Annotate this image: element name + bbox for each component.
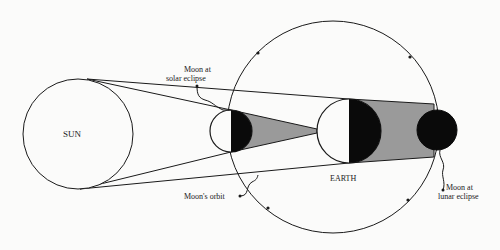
- moon-lunar-label-line1: Moon at: [446, 183, 474, 192]
- moon-lunar-label-line2: lunar eclipse: [438, 192, 479, 201]
- moon-solar-label-line1: Moon at: [184, 65, 212, 74]
- orbit-label: Moon's orbit: [184, 192, 226, 201]
- eclipse-diagram: SUN EARTH Moon at solar eclipse Moon at …: [0, 0, 500, 250]
- moon-solar-label-line2: solar eclipse: [166, 74, 206, 83]
- diagram-svg: SUN EARTH Moon at solar eclipse Moon at …: [0, 0, 500, 250]
- earth-label: EARTH: [330, 174, 356, 183]
- sun-label: SUN: [63, 129, 82, 139]
- moon-lunar-eclipse: [417, 110, 457, 150]
